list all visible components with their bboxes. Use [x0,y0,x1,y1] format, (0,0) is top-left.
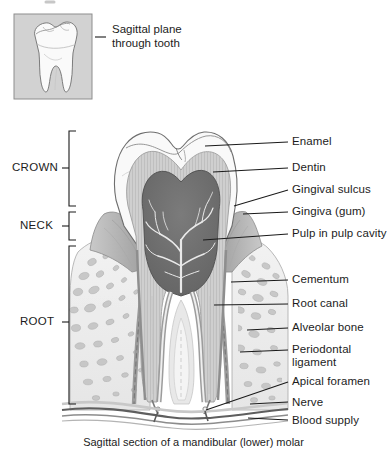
label-pulp-in-pulp-cavity: Pulp in pulp cavity [292,227,387,240]
label-cementum: Cementum [292,273,349,286]
label-gingiva: Gingiva (gum) [292,205,366,218]
label-blood-supply: Blood supply [292,414,359,427]
inset-caption-line2: through tooth [112,37,180,49]
inset-panel [14,2,92,99]
label-gingival-sulcus: Gingival sulcus [292,183,371,196]
inset-caption-line1: Sagittal plane [112,23,182,35]
figure-caption: Sagittal section of a mandibular (lower)… [0,436,387,448]
pulp-chamber [142,170,220,296]
label-alveolar-bone: Alveolar bone [292,321,364,334]
main-tooth-illustration [62,132,288,429]
label-periodontal-ligament-line1: Periodontal [292,343,351,356]
label-periodontal-ligament-line2: ligament [292,356,336,369]
label-enamel: Enamel [292,135,332,148]
region-label-neck: NECK [20,219,53,232]
bracket-crown [69,131,76,206]
inset-caption: Sagittal planethrough tooth [112,22,182,50]
bracket-neck [69,212,76,240]
region-label-crown: CROWN [12,161,58,174]
label-nerve: Nerve [292,396,323,409]
region-label-root: ROOT [20,315,54,328]
label-apical-foramen: Apical foramen [292,375,370,388]
label-root-canal: Root canal [292,297,348,310]
alveolar-bone-right [232,238,288,410]
tooth-anatomy-figure: Sagittal planethrough tooth CROWN NECK R… [0,0,387,459]
label-dentin: Dentin [292,161,326,174]
root-canal-group [159,292,204,404]
leader-gingival-sulcus [234,190,288,206]
leader-gingiva [243,212,288,214]
